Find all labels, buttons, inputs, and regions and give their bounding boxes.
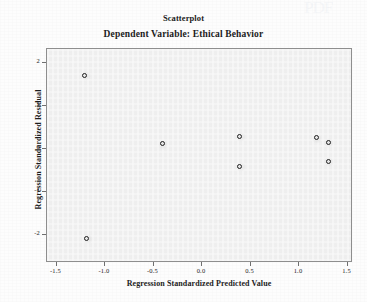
- plot-background-texture: [47, 49, 351, 261]
- data-point: [82, 73, 87, 78]
- y-tick-mark: [42, 62, 46, 63]
- x-tick-mark: [250, 262, 251, 266]
- chart-subtitle: Dependent Variable: Ethical Behavior: [0, 29, 367, 39]
- x-tick-mark: [201, 262, 202, 266]
- chart-title: Scatterplot: [0, 13, 367, 23]
- x-tick-label: 0.5: [233, 267, 267, 274]
- data-point: [237, 164, 242, 169]
- x-tick-mark: [153, 262, 154, 266]
- x-tick-mark: [347, 262, 348, 266]
- data-point: [314, 135, 319, 140]
- page-background: PDF Scatterplot Dependent Variable: Ethi…: [0, 0, 367, 302]
- y-tick-mark: [42, 148, 46, 149]
- x-tick-label: -1.0: [87, 267, 121, 274]
- data-point: [237, 134, 242, 139]
- data-point: [84, 236, 89, 241]
- x-tick-mark: [56, 262, 57, 266]
- x-tick-label: 1.0: [281, 267, 315, 274]
- x-axis-title: Regression Standardized Predicted Value: [46, 279, 352, 288]
- data-point: [326, 159, 331, 164]
- y-tick-mark: [42, 191, 46, 192]
- plot-area: [46, 48, 352, 262]
- y-axis-title: Regression Standardized Residual: [34, 50, 43, 250]
- x-tick-mark: [298, 262, 299, 266]
- data-point: [160, 141, 165, 146]
- x-tick-label: -0.5: [136, 267, 170, 274]
- x-tick-label: 1.5: [330, 267, 364, 274]
- y-tick-mark: [42, 105, 46, 106]
- x-tick-label: -1.5: [39, 267, 73, 274]
- y-tick-mark: [42, 234, 46, 235]
- data-point: [326, 140, 331, 145]
- x-tick-label: 0.0: [184, 267, 218, 274]
- x-tick-mark: [104, 262, 105, 266]
